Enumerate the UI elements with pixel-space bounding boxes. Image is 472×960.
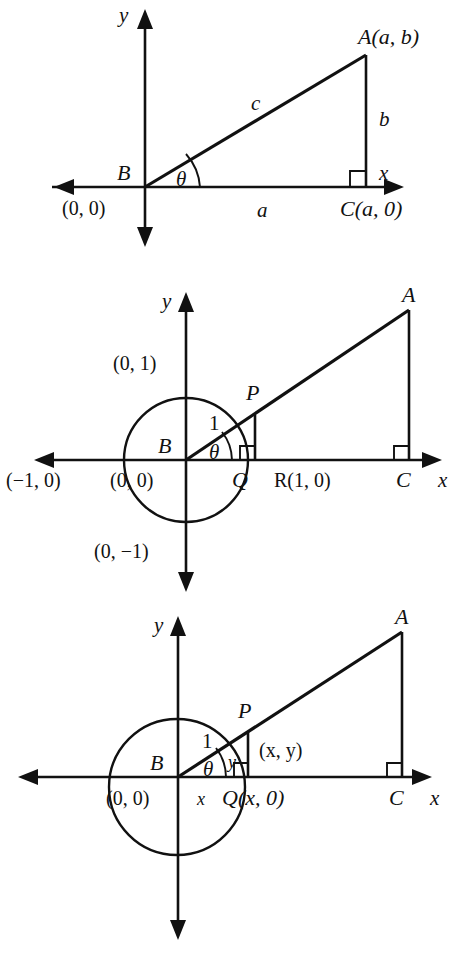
y-axis-bottom-arrowhead	[178, 572, 194, 592]
label-point-q: Q	[232, 467, 248, 492]
right-angle-marker-c	[394, 446, 409, 460]
label-point-p-coordinate: (x, y)	[259, 739, 302, 762]
label-vertex-a: A	[400, 282, 416, 307]
right-angle-marker-c	[350, 171, 366, 187]
label-vertex-c: C(a, 0)	[340, 196, 402, 221]
math-figure-sheet: B (0, 0) A(a, b) C(a, 0) a b c θ y x	[0, 0, 472, 960]
x-axis-right-arrowhead	[422, 452, 442, 468]
label-vertex-b: B	[158, 433, 171, 458]
figure-unit-circle-xy-coordinates: B (0, 0) P (x, y) Q(x, 0) A C 1 y x θ y …	[0, 600, 472, 960]
x-axis-left-arrowhead	[18, 769, 38, 785]
label-angle-theta: θ	[203, 757, 213, 781]
y-axis-bottom-arrowhead	[170, 920, 186, 940]
label-side-b: b	[379, 107, 390, 131]
label-circle-bottom-coordinate: (0, −1)	[94, 540, 149, 563]
label-vertex-b: B	[117, 160, 130, 185]
label-vertex-a: A(a, b)	[356, 24, 419, 49]
label-vertex-c: C	[389, 785, 404, 810]
x-axis-right-arrowhead	[412, 769, 432, 785]
label-angle-theta: θ	[209, 440, 219, 464]
label-side-c: c	[251, 91, 261, 115]
label-point-p: P	[237, 698, 251, 723]
label-circle-top-coordinate: (0, 1)	[113, 352, 156, 375]
x-axis-left-arrowhead	[54, 179, 74, 195]
label-origin-coordinate: (0, 0)	[106, 787, 149, 810]
label-x-axis: x	[429, 786, 440, 810]
hypotenuse-ba	[186, 310, 409, 460]
label-point-p: P	[245, 380, 259, 405]
label-leg-y: y	[226, 752, 236, 772]
label-x-axis: x	[378, 161, 389, 185]
label-vertex-c: C	[396, 467, 411, 492]
y-axis-top-arrowhead	[137, 9, 153, 29]
label-leg-x: x	[196, 789, 205, 809]
label-angle-theta: θ	[176, 167, 186, 191]
label-y-axis: y	[152, 613, 164, 637]
y-axis-top-arrowhead	[170, 616, 186, 636]
x-axis-left-arrowhead	[34, 452, 54, 468]
right-angle-marker-c	[387, 763, 402, 777]
figure-unit-circle-labeled-points: B (0, 0) (0, 1) (0, −1) (−1, 0) R(1, 0) …	[0, 260, 472, 600]
label-vertex-b: B	[150, 750, 163, 775]
label-origin-coordinate: (0, 0)	[110, 469, 153, 492]
figure-right-triangle-abc: B (0, 0) A(a, b) C(a, 0) a b c θ y x	[0, 0, 472, 260]
label-vertex-a: A	[393, 604, 409, 629]
label-origin-coordinate: (0, 0)	[62, 197, 105, 220]
label-circle-left-coordinate: (−1, 0)	[6, 469, 61, 492]
label-point-q: Q(x, 0)	[222, 785, 284, 810]
y-axis-top-arrowhead	[178, 292, 194, 312]
label-x-axis: x	[437, 468, 448, 492]
label-y-axis: y	[160, 289, 172, 313]
y-axis-bottom-arrowhead	[137, 227, 153, 247]
label-y-axis: y	[117, 3, 129, 27]
label-radius-one: 1	[209, 411, 220, 435]
label-circle-right-coordinate: R(1, 0)	[274, 469, 331, 492]
label-side-a: a	[257, 198, 268, 222]
label-radius-one: 1	[202, 729, 213, 753]
